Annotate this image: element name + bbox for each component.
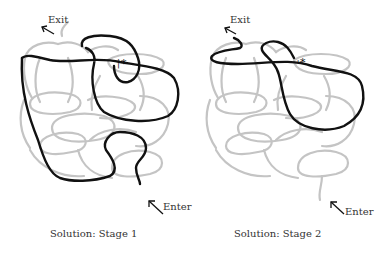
panel-stage-1: | Exit Enter * Solution: Stage 1 bbox=[0, 0, 195, 253]
caption-stage-1: Solution: Stage 1 bbox=[50, 228, 137, 239]
start-marker-asterisk: * bbox=[300, 56, 306, 69]
exit-arrow-icon bbox=[225, 27, 236, 34]
start-marker-asterisk: * bbox=[121, 57, 127, 70]
marker-bar: ' bbox=[297, 58, 299, 67]
panel-stage-2: ' Exit Enter * Solution: Stage 2 bbox=[194, 0, 389, 253]
enter-label: Enter bbox=[163, 201, 191, 212]
exit-arrow-icon bbox=[42, 26, 54, 34]
solution-path bbox=[22, 35, 179, 184]
enter-arrow-icon bbox=[149, 201, 163, 214]
knot-maze-stage-1: | bbox=[0, 0, 195, 253]
caption-stage-2: Solution: Stage 2 bbox=[234, 228, 321, 239]
exit-label: Exit bbox=[48, 14, 68, 25]
grey-maze-loops bbox=[207, 42, 355, 200]
enter-label: Enter bbox=[345, 206, 373, 217]
enter-arrow-icon bbox=[331, 202, 344, 214]
marker-bar: | bbox=[117, 58, 120, 69]
exit-label: Exit bbox=[230, 14, 250, 25]
